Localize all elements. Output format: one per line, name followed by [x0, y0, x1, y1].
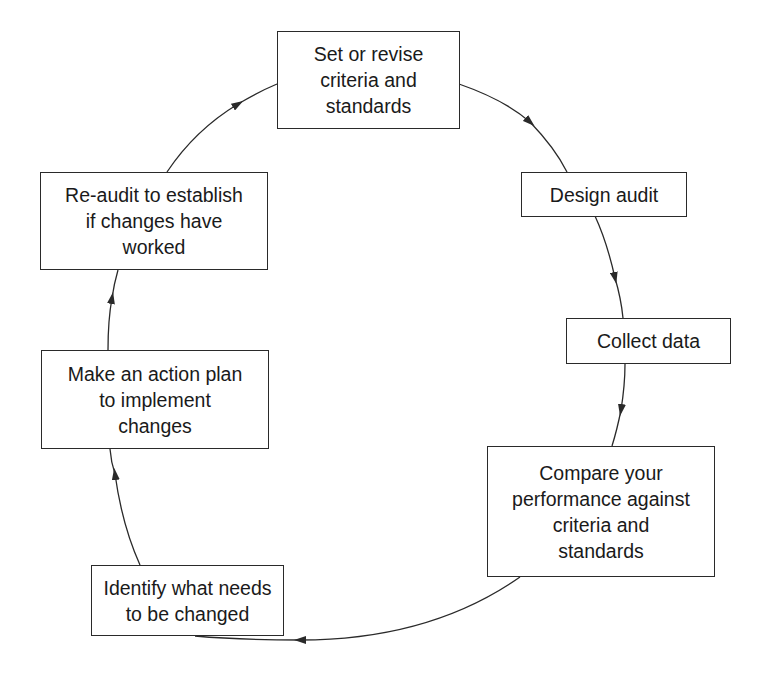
arc-collect-data-to-compare — [612, 410, 621, 446]
node-design-audit: Design audit — [521, 172, 687, 217]
node-label: Design audit — [550, 182, 658, 208]
node-label: Set or revise criteria and standards — [314, 41, 423, 119]
arc-design-audit-to-collect-data — [615, 278, 623, 318]
node-label: Collect data — [597, 328, 700, 354]
arc-identify-to-action-plan — [110, 449, 115, 474]
arrow-collect-data-to-compare — [621, 364, 625, 410]
node-label: Compare your performance against criteri… — [512, 460, 690, 564]
node-compare-performance: Compare your performance against criteri… — [487, 446, 715, 577]
arc-compare-to-identify — [195, 636, 300, 640]
node-identify-changes: Identify what needs to be changed — [91, 565, 284, 636]
arrow-re-audit-to-set-criteria — [167, 104, 238, 172]
arrow-identify-to-action-plan — [115, 474, 140, 565]
arrow-action-plan-to-re-audit — [108, 298, 112, 350]
arc-set-criteria-to-design-audit — [530, 122, 567, 172]
node-collect-data: Collect data — [566, 318, 731, 364]
arrow-compare-to-identify — [300, 577, 520, 640]
node-action-plan: Make an action plan to implement changes — [41, 350, 269, 449]
node-label: Identify what needs to be changed — [103, 575, 271, 627]
arrow-set-criteria-to-design-audit — [459, 84, 530, 122]
arc-action-plan-to-re-audit — [112, 270, 118, 298]
node-re-audit: Re-audit to establish if changes have wo… — [40, 172, 268, 270]
node-set-criteria: Set or revise criteria and standards — [277, 31, 460, 129]
node-label: Re-audit to establish if changes have wo… — [65, 182, 243, 260]
arc-re-audit-to-set-criteria — [238, 84, 277, 104]
node-label: Make an action plan to implement changes — [68, 361, 243, 439]
arrow-design-audit-to-collect-data — [595, 216, 615, 278]
